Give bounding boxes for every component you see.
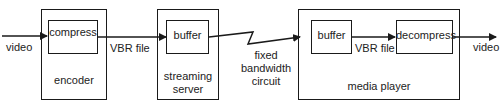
decompress-label: decompress <box>396 29 453 41</box>
player-buffer-label: buffer <box>311 29 352 41</box>
vbr-streaming-diagram: video compress encoder VBR file buffer s… <box>0 0 503 106</box>
fixed-bandwidth-circuit-line <box>209 32 300 44</box>
compress-label: compress <box>48 26 98 38</box>
output-video-label: video <box>473 41 499 53</box>
player-vbr-file-label: VBR file <box>355 42 395 54</box>
streaming-server-title-line1: streaming <box>157 70 219 82</box>
server-buffer-label: buffer <box>166 29 209 41</box>
circuit-label-line1: fixed <box>228 49 304 61</box>
input-video-label: video <box>6 41 32 53</box>
encoder-title: encoder <box>41 74 107 86</box>
streaming-server-title-line2: server <box>157 83 219 95</box>
media-player-title: media player <box>298 80 460 92</box>
vbr-file-label: VBR file <box>110 42 150 54</box>
circuit-label-line3: circuit <box>228 75 304 87</box>
circuit-label-line2: bandwidth <box>228 62 304 74</box>
